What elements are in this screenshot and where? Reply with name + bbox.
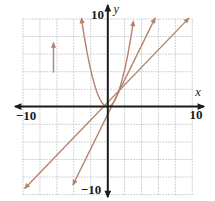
y-max-tick-label: 10 [91, 7, 104, 22]
y-axis-label: y [112, 2, 120, 16]
x-max-tick-label: 10 [190, 107, 203, 122]
coordinate-plane: 10 y −10 x 10 −10 [0, 0, 215, 201]
x-axis-label: x [194, 85, 201, 99]
y-min-tick-label: −10 [81, 182, 101, 197]
x-min-tick-label: −10 [16, 108, 36, 123]
graph-figure: 10 y −10 x 10 −10 [0, 0, 215, 201]
